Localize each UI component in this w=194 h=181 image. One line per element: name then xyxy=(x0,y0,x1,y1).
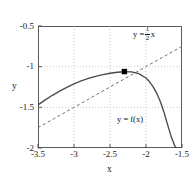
xtick-label-neg2p5: -2.5 xyxy=(92,150,128,159)
x-axis-label: x xyxy=(107,164,112,174)
ytick-label-neg1: -1 xyxy=(0,62,34,71)
tangency-point-marker xyxy=(122,69,127,74)
series-curve-f-of-x xyxy=(38,72,176,148)
xtick-label-neg3: -3 xyxy=(56,150,92,159)
annotation-line-equation: y =12x xyxy=(133,26,155,42)
line-equation-suffix: x xyxy=(151,29,155,39)
ytick-label-neg1p5: -1.5 xyxy=(0,103,34,112)
one-half-fraction: 12 xyxy=(145,26,151,42)
figure: -0.5 -1 -1.5 -2 -3.5 -3 -2.5 -2 -1.5 y x… xyxy=(0,0,194,181)
fraction-denominator: 2 xyxy=(145,35,151,43)
xtick-label-neg3p5: -3.5 xyxy=(20,150,56,159)
xtick-label-neg2: -2 xyxy=(128,150,164,159)
line-equation-prefix: y = xyxy=(133,29,144,39)
xtick-label-neg1p5: -1.5 xyxy=(164,150,194,159)
series-line-half-x xyxy=(38,46,182,127)
y-axis-label: y xyxy=(12,81,17,91)
annotation-function-equation: y = f(x) xyxy=(117,114,143,124)
ytick-label-neg0p5: -0.5 xyxy=(0,22,34,31)
